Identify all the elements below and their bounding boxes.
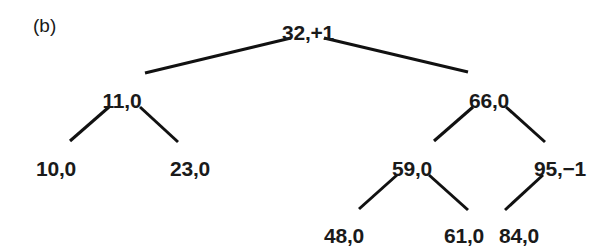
- tree-edge-n32-n11: [145, 38, 291, 73]
- tree-node-23: 23,0: [170, 158, 210, 179]
- tree-node-10: 10,0: [36, 158, 76, 179]
- tree-node-66: 66,0: [469, 90, 509, 111]
- tree-node-11: 11,0: [103, 90, 142, 111]
- tree-edge-n11-n10: [70, 107, 109, 141]
- tree-node-61: 61,0: [444, 225, 484, 246]
- tree-node-48: 48,0: [324, 225, 364, 246]
- tree-edge-n11-n23: [140, 107, 178, 142]
- tree-edge-n59-n48: [359, 175, 397, 209]
- tree-edge-n95-n84: [505, 175, 543, 210]
- tree-edge-n59-n61: [429, 175, 468, 210]
- tree-edge-n32-n66: [324, 38, 468, 72]
- tree-node-84: 84,0: [499, 225, 539, 246]
- tree-node-59: 59,0: [392, 158, 432, 179]
- tree-node-95: 95,−1: [534, 158, 586, 179]
- tree-node-32: 32,+1: [282, 22, 334, 43]
- tree-edge-n66-n59: [434, 107, 473, 141]
- tree-edge-n66-n95: [506, 107, 545, 142]
- avl-tree-figure: (b) 32,+111,066,010,023,059,095,−148,061…: [0, 0, 612, 250]
